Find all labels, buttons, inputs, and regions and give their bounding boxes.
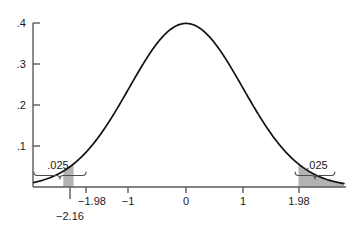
extra-critical-value-label: −2.16 (56, 211, 84, 222)
x-axis-ticks (86, 187, 299, 193)
normal-density-curve (34, 23, 344, 183)
x-tick-label-0: −1.98 (78, 196, 106, 207)
x-tick-label-3: 1 (240, 196, 246, 207)
left-tail-probability-label: .025 (47, 160, 68, 171)
y-axis-ticks (33, 23, 40, 146)
right-tail-probability-label: .025 (306, 160, 327, 171)
x-tick-label-2: 0 (183, 196, 189, 207)
x-tick-label-1: −1 (122, 196, 135, 207)
y-tick-label-0: .4 (0, 18, 26, 29)
y-tick-label-2: .2 (0, 100, 26, 111)
y-tick-label-3: .1 (0, 141, 26, 152)
normal-distribution-figure: .4 .3 .2 .1 −1.98 −1 0 1 1.98 .025 .025 … (0, 0, 360, 231)
y-tick-label-1: .3 (0, 59, 26, 70)
x-tick-label-4: 1.98 (288, 196, 309, 207)
